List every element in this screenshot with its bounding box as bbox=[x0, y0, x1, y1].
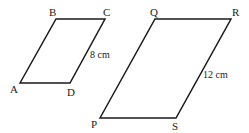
vertex-label-q: Q bbox=[150, 6, 158, 18]
side-length-cd: 8 cm bbox=[90, 49, 110, 60]
vertex-label-p: P bbox=[91, 118, 97, 130]
vertex-label-d: D bbox=[67, 86, 75, 98]
vertex-label-c: C bbox=[103, 6, 110, 18]
vertex-label-s: S bbox=[172, 120, 178, 132]
parallelogram-diagram: B C A D 8 cm Q R P S 12 cm bbox=[0, 0, 249, 133]
side-length-rs: 12 cm bbox=[203, 69, 228, 80]
vertex-label-a: A bbox=[10, 83, 18, 95]
small-parallelogram-abcd: B C A D 8 cm bbox=[10, 6, 110, 98]
large-parallelogram-pqrs: Q R P S 12 cm bbox=[91, 6, 240, 132]
vertex-label-b: B bbox=[49, 6, 56, 18]
vertex-label-r: R bbox=[232, 6, 240, 18]
